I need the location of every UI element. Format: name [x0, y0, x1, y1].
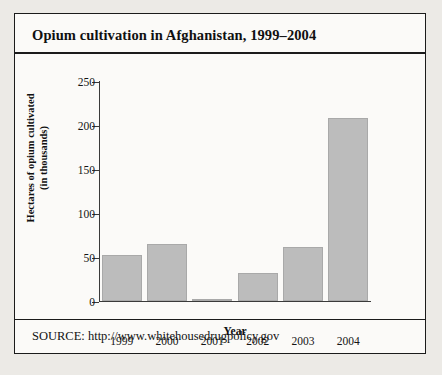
bar-1999	[102, 255, 142, 301]
bar-2001	[192, 299, 232, 301]
x-axis-line	[99, 301, 371, 302]
y-axis-title: Hectares of opium cultivated (in thousan…	[24, 78, 50, 238]
chart-source: SOURCE: http://www.whitehousedrugpolicy.…	[32, 329, 279, 344]
figure-frame: Opium cultivation in Afghanistan, 1999–2…	[14, 13, 426, 354]
bar-2000	[147, 244, 187, 300]
bar-2002	[238, 273, 278, 300]
bar-2004	[328, 118, 368, 301]
bar-slot	[144, 81, 189, 301]
bar-2003	[283, 247, 323, 301]
source-divider	[15, 319, 425, 321]
bar-slot	[326, 81, 371, 301]
y-tick-label: 100	[78, 208, 95, 220]
y-axis-title-line-2: (in thousands)	[37, 78, 50, 238]
y-axis-title-line-1: Hectares of opium cultivated	[24, 78, 37, 238]
y-tick-label: 200	[78, 120, 95, 132]
bar-slot	[235, 81, 280, 301]
bar-slot	[280, 81, 325, 301]
plot-area: 050100150200250 199920002001200220032004	[99, 82, 371, 302]
y-tick-label: 250	[78, 76, 95, 88]
chart-title: Opium cultivation in Afghanistan, 1999–2…	[32, 27, 316, 44]
bar-slot	[99, 81, 144, 301]
y-tick-label: 0	[89, 296, 95, 308]
plot-region: Hectares of opium cultivated (in thousan…	[15, 53, 427, 319]
bar-slot	[190, 81, 235, 301]
bar-series	[99, 81, 371, 301]
y-tick-label: 50	[84, 252, 96, 264]
y-tick-label: 150	[78, 164, 95, 176]
